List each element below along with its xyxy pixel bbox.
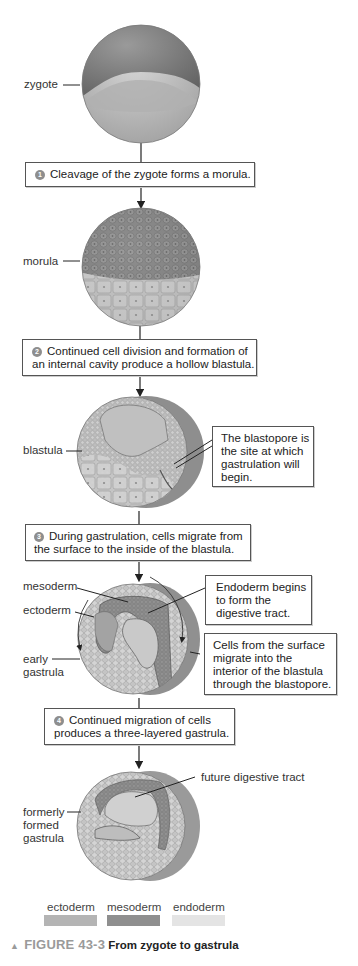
callout-endoderm-line3: digestive tract. [216,607,311,620]
callout-endoderm-line1: Endoderm begins [216,581,311,594]
label-early-gastrula-line2: gastrula [23,666,64,679]
step-box-2: 2Continued cell division and formation o… [22,339,257,376]
legend-label-mesoderm: mesoderm [107,901,161,913]
label-early-gastrula: early gastrula [23,653,64,679]
early-gastrula-illustration [78,577,200,695]
label-mesoderm: mesoderm [23,580,77,593]
step-3-line2: the surface to the inside of the blastul… [34,543,250,556]
callout-migration: Cells from the surface migrate into the … [204,633,337,695]
callout-endoderm: Endoderm begins to form the digestive tr… [205,575,312,625]
step-3-line1: During gastrulation, cells migrate from [49,530,243,542]
step-box-1: 1Cleavage of the zygote forms a morula. [25,162,255,187]
label-ectoderm: ectoderm [23,604,71,617]
step-4-line1: Continued migration of cells [69,714,211,726]
legend-swatch-mesoderm [107,915,160,926]
callout-blastopore: The blastopore is the site at which gast… [212,426,314,487]
figure-title: From zygote to gastrula [108,939,238,951]
callout-migration-line3: interior of the blastula [213,665,336,678]
step-box-3: 3During gastrulation, cells migrate from… [25,524,251,561]
legend-swatch-ectoderm [44,915,97,926]
formerly-formed-gastrula-illustration [77,771,200,881]
callout-blastopore-line1: The blastopore is [221,432,313,445]
label-early-gastrula-line1: early [23,653,64,666]
label-formerly-formed-gastrula: formerly formed gastrula [23,806,65,845]
step-2-line2: an internal cavity produce a hollow blas… [32,358,256,371]
step-number-2: 2 [32,347,42,357]
step-2-line1: Continued cell division and formation of [47,345,248,357]
step-1-text: Cleavage of the zygote forms a morula. [50,168,251,180]
label-future-digestive-tract: future digestive tract [201,771,305,784]
step-number-4: 4 [54,716,64,726]
morula-illustration [70,200,212,326]
callout-endoderm-line2: to form the [216,594,311,607]
step-box-4: 4Continued migration of cells produces a… [44,708,235,745]
step-4-line2: produces a three-layered gastrula. [54,727,234,740]
label-formerly-line2: formed [23,819,65,832]
zygote-illustration [70,20,212,143]
legend-label-ectoderm: ectoderm [47,901,95,913]
label-formerly-line3: gastrula [23,832,65,845]
figure-number: FIGURE 43-3 [24,937,105,952]
step-number-3: 3 [34,532,44,542]
triangle-marker-icon: ▲ [10,941,19,951]
label-formerly-line1: formerly [23,806,65,819]
legend-swatch-endoderm [172,915,225,926]
figure-caption: ▲ FIGURE 43-3 From zygote to gastrula [10,937,239,952]
legend-label-endoderm: endoderm [173,901,225,913]
label-morula: morula [23,255,58,268]
step-number-1: 1 [35,170,45,180]
callout-blastopore-line2: the site at which [221,445,313,458]
callout-migration-line2: migrate into the [213,652,336,665]
callout-migration-line1: Cells from the surface [213,639,336,652]
label-zygote: zygote [24,78,58,91]
label-blastula: blastula [23,444,63,457]
callout-blastopore-line3: gastrulation will [221,458,313,471]
callout-migration-line4: through the blastopore. [213,678,336,691]
callout-blastopore-line4: begin. [221,471,313,484]
